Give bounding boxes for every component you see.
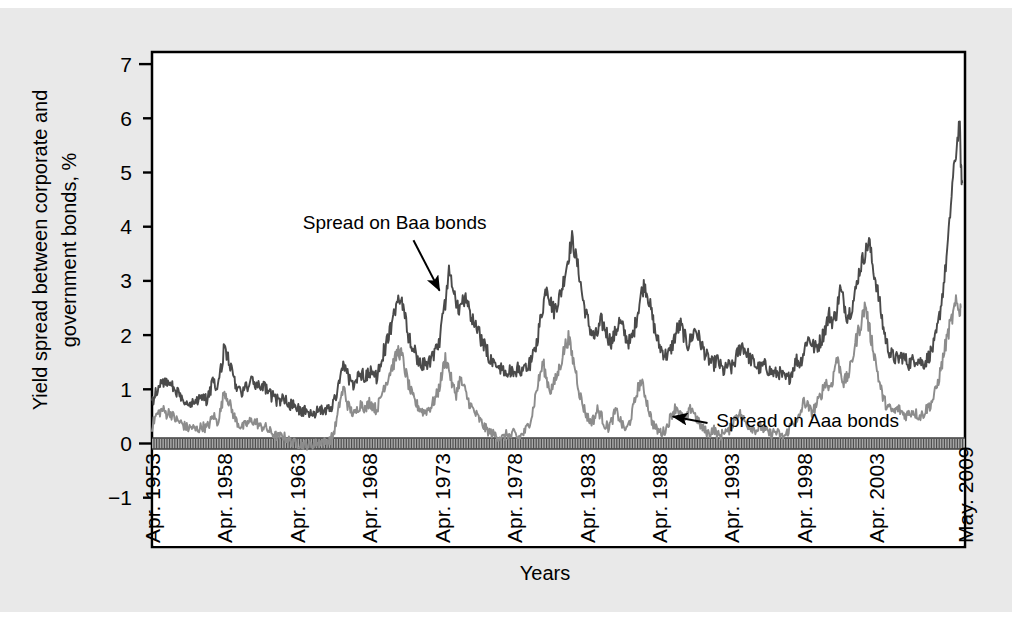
y-tick-label: 2 [120,324,132,347]
y-axis: −101234567 [108,53,152,510]
x-tick-label: Apr. 1978 [503,453,526,543]
x-tick-label: Apr. 1963 [286,453,309,543]
x-tick-label: Apr. 1988 [648,453,671,543]
y-tick-label: 3 [120,269,132,292]
y-tick-label: −1 [108,486,132,509]
x-tick-label: Apr. 1953 [141,453,164,543]
page-right-margin [1012,0,1029,620]
x-tick-label: Apr. 2003 [865,453,888,543]
x-tick-label: Apr. 1973 [431,453,454,543]
y-axis-title-line2: government bonds, % [58,153,80,348]
x-tick-label: Apr. 1968 [358,453,381,543]
page-bottom-margin [0,612,1029,620]
x-axis-title: Years [520,562,570,584]
zero-axis-tick-band [152,438,965,449]
annotation-label: Spread on Aaa bonds [716,410,899,431]
x-tick-label: Apr. 1993 [720,453,743,543]
y-tick-label: 7 [120,53,132,76]
x-tick-label: Apr. 1983 [576,453,599,543]
annotation-label: Spread on Baa bonds [303,212,487,233]
bond-spread-line-chart: −101234567 Apr. 1953Apr. 1958Apr. 1963Ap… [0,8,1029,612]
figure-background: −101234567 Apr. 1953Apr. 1958Apr. 1963Ap… [0,8,1029,612]
y-tick-label: 6 [120,107,132,130]
page-top-margin [0,0,1029,8]
xtick-label-strip [154,444,964,546]
y-tick-label: 0 [120,432,132,455]
plot-area-background [152,52,965,438]
x-tick-label: May. 2009 [954,447,977,544]
y-axis-title-line1: Yield spread between corporate and [29,90,51,411]
x-tick-label: Apr. 1998 [793,453,816,543]
y-tick-label: 1 [120,378,132,401]
x-tick-label: Apr. 1958 [213,453,236,543]
y-tick-label: 5 [120,161,132,184]
y-tick-label: 4 [120,215,132,238]
